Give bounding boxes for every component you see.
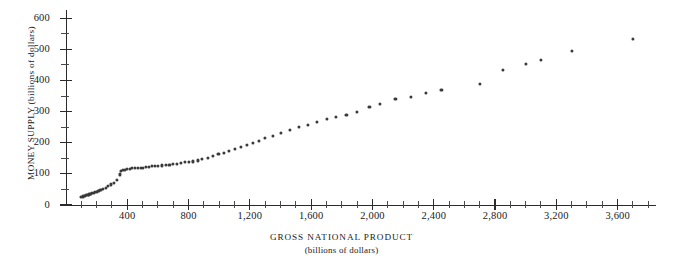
- x-tick-major: [494, 199, 495, 210]
- x-tick-major: [372, 199, 373, 210]
- x-tick-minor: [510, 201, 511, 208]
- data-point: [394, 98, 397, 101]
- x-tick-minor: [341, 201, 342, 208]
- scatter-chart: 0100200300400500600 4008001,2001,6002,00…: [0, 0, 683, 268]
- x-tick-major: [617, 199, 618, 210]
- x-tick-label: 800: [159, 210, 219, 221]
- y-tick-major: [60, 18, 72, 19]
- data-point: [217, 153, 220, 156]
- data-point: [187, 160, 190, 163]
- x-tick-minor: [280, 201, 281, 208]
- x-tick-label: 400: [97, 210, 157, 221]
- y-tick-major: [60, 204, 72, 205]
- data-point: [251, 142, 254, 145]
- x-tick-minor: [357, 201, 358, 208]
- x-tick-minor: [403, 201, 404, 208]
- data-point: [279, 131, 282, 134]
- x-tick-label: 3,200: [526, 210, 586, 221]
- x-tick-minor: [525, 201, 526, 208]
- data-point: [570, 49, 573, 52]
- data-point: [440, 88, 443, 91]
- y-tick-minor: [61, 33, 69, 34]
- y-tick-minor: [61, 189, 69, 190]
- x-tick-label: 3,600: [588, 210, 648, 221]
- x-tick-minor: [219, 201, 220, 208]
- x-tick-minor: [234, 201, 235, 208]
- data-point: [192, 160, 195, 163]
- data-point: [297, 126, 300, 129]
- x-tick-minor: [81, 201, 82, 208]
- data-point: [175, 162, 178, 165]
- x-axis-title: GROSS NATIONAL PRODUCT (billions of doll…: [0, 231, 683, 256]
- x-axis-title-main: GROSS NATIONAL PRODUCT: [270, 232, 413, 242]
- data-point: [179, 161, 182, 164]
- y-tick-major: [60, 111, 72, 112]
- x-tick-minor: [464, 201, 465, 208]
- data-point: [196, 159, 199, 162]
- x-tick-minor: [173, 201, 174, 208]
- x-tick-major: [127, 199, 128, 210]
- x-tick-minor: [326, 201, 327, 208]
- x-tick-minor: [265, 201, 266, 208]
- x-tick-minor: [571, 201, 572, 208]
- x-axis-line: [66, 205, 656, 206]
- x-tick-minor: [203, 201, 204, 208]
- data-point: [316, 121, 319, 124]
- data-point: [112, 181, 115, 184]
- x-tick-minor: [632, 201, 633, 208]
- x-axis-title-units: (billions of dollars): [0, 244, 683, 256]
- data-point: [206, 156, 209, 159]
- data-point: [631, 38, 634, 41]
- data-point: [239, 146, 242, 149]
- x-tick-label: 1,200: [220, 210, 280, 221]
- data-point: [356, 110, 359, 113]
- data-point: [183, 161, 186, 164]
- x-tick-minor: [648, 201, 649, 208]
- y-axis-title: MONEY SUPPLY (billions of dollars): [26, 8, 36, 198]
- data-point: [258, 140, 261, 143]
- x-tick-label: 1,600: [281, 210, 341, 221]
- y-tick-minor: [61, 127, 69, 128]
- data-point: [245, 144, 248, 147]
- data-point: [228, 149, 231, 152]
- y-tick-minor: [61, 158, 69, 159]
- x-tick-major: [433, 199, 434, 210]
- x-tick-major: [188, 199, 189, 210]
- y-tick-major: [60, 49, 72, 50]
- data-point: [172, 163, 175, 166]
- data-point: [264, 137, 267, 140]
- data-point: [115, 179, 118, 182]
- y-tick-major: [60, 173, 72, 174]
- data-point: [233, 147, 236, 150]
- data-point: [524, 63, 527, 66]
- x-tick-label: 2,400: [404, 210, 464, 221]
- x-tick-label: 2,800: [465, 210, 525, 221]
- y-tick-major: [60, 142, 72, 143]
- data-point: [288, 128, 291, 131]
- x-tick-minor: [418, 201, 419, 208]
- data-point: [201, 158, 204, 161]
- y-tick-minor: [61, 96, 69, 97]
- data-point: [271, 134, 274, 137]
- data-point: [425, 91, 428, 94]
- data-point: [345, 113, 348, 116]
- x-tick-minor: [295, 201, 296, 208]
- x-tick-major: [249, 199, 250, 210]
- x-tick-minor: [387, 201, 388, 208]
- data-point: [478, 83, 481, 86]
- x-tick-minor: [449, 201, 450, 208]
- data-point: [379, 102, 382, 105]
- y-tick-major: [60, 80, 72, 81]
- data-point: [307, 123, 310, 126]
- y-tick-label: 0: [16, 200, 50, 210]
- y-axis-line: [66, 10, 67, 206]
- x-tick-label: 2,000: [342, 210, 402, 221]
- data-point: [368, 105, 371, 108]
- x-tick-major: [556, 199, 557, 210]
- x-tick-minor: [602, 201, 603, 208]
- data-point: [168, 163, 171, 166]
- x-tick-major: [311, 199, 312, 210]
- x-tick-minor: [479, 201, 480, 208]
- data-point: [164, 163, 167, 166]
- data-point: [540, 58, 543, 61]
